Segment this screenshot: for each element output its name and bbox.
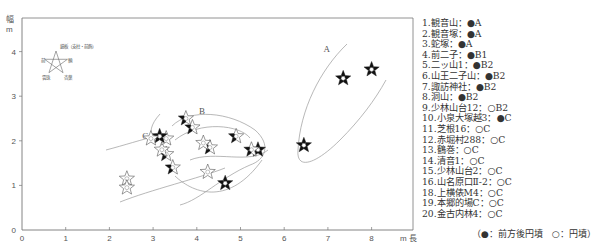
star-marker-icon — [200, 164, 215, 178]
y-tick-label: 0 — [12, 226, 17, 235]
x-tick-label: 5 — [238, 234, 243, 243]
legend-item: 16.山名原口Ⅱ-2：○C — [422, 177, 595, 188]
y-axis-ticks: 01234 — [12, 48, 22, 235]
legend-item: 6.山王二子山：●B2 — [422, 71, 595, 82]
legend-item: 1.観音山：●A — [422, 18, 595, 29]
legend-note: （●：前方後円墳 ○：円墳） — [472, 227, 595, 240]
x-tick-label: 2 — [107, 234, 112, 243]
x-axis-label: m 長 — [400, 234, 417, 243]
x-tick-label: 3 — [151, 234, 156, 243]
star-marker-icon — [296, 137, 311, 151]
y-axis-unit: m — [6, 25, 13, 34]
x-tick-label: 6 — [282, 234, 287, 243]
legend: 1.観音山：●A2.観音塚：●A3.蛇塚：●A4.前二子：●B15.二ッ山1：●… — [422, 18, 595, 219]
y-axis-label: 幅 — [6, 14, 14, 24]
marker-key-label: 鏡板（支柱・前飾） — [60, 43, 96, 50]
y-tick-label: 4 — [12, 48, 17, 57]
x-tick-label: 0 — [20, 234, 25, 243]
group-label-A: A — [324, 44, 331, 54]
y-tick-label: 2 — [12, 137, 17, 146]
star-marker-icon — [218, 175, 233, 189]
y-tick-label: 1 — [12, 181, 17, 190]
marker-key-label: 杏葉 — [64, 74, 73, 81]
group-labels: ABC — [142, 44, 330, 141]
star-marker-icon — [364, 61, 379, 75]
legend-item: 20.金古内林4：○C — [422, 209, 595, 220]
marker-key-label: 雲珠 — [42, 74, 51, 81]
x-axis-ticks: 012345678 — [20, 227, 375, 243]
plot-frame — [22, 18, 413, 230]
legend-item: 11.芝根16：○C — [422, 124, 595, 135]
legend-list: 1.観音山：●A2.観音塚：●A3.蛇塚：●A4.前二子：●B15.二ッ山1：●… — [422, 18, 595, 219]
marker-key-label: 前 — [41, 57, 46, 64]
marker-key-label: 輌 — [68, 58, 73, 64]
group-label-B: B — [199, 106, 205, 116]
star-marker-icon — [229, 128, 244, 142]
star-marker-icon — [165, 160, 180, 174]
x-tick-label: 1 — [63, 234, 68, 243]
x-tick-label: 7 — [326, 234, 331, 243]
star-marker-icon — [119, 180, 134, 194]
marker-key: 鏡板（支柱・前飾）前輌雲珠杏葉 — [41, 43, 96, 81]
group-envelopes — [106, 44, 386, 205]
star-marker-icon — [336, 70, 351, 84]
y-tick-label: 3 — [12, 92, 17, 101]
x-tick-label: 4 — [195, 234, 200, 243]
x-tick-label: 8 — [369, 234, 374, 243]
pentagram-key-icon — [45, 51, 68, 73]
data-points — [119, 61, 379, 194]
